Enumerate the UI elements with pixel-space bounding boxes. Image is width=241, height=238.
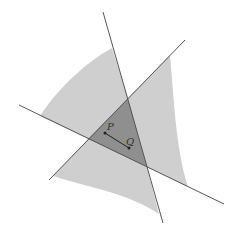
label-p: P	[106, 121, 114, 132]
triangle-diagram: P Q	[0, 0, 241, 238]
label-q: Q	[126, 136, 134, 147]
